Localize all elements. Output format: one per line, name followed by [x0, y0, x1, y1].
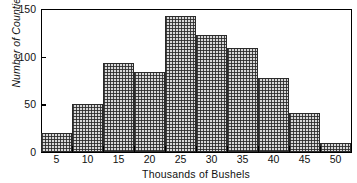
x-tick-label-35: 35	[228, 153, 258, 165]
x-tick-label-45: 45	[290, 153, 320, 165]
bar-bin-30	[196, 35, 227, 152]
x-tick-label-50: 50	[321, 153, 351, 165]
x-tick-label-25: 25	[166, 153, 196, 165]
x-tick-mark-42_5	[289, 146, 290, 152]
y-tick-label-100: 100	[12, 52, 36, 62]
x-tick-mark-37_5	[258, 146, 259, 152]
y-tick-label-50: 50	[12, 99, 36, 109]
bar-bin-5	[41, 133, 72, 152]
x-tick-label-15: 15	[104, 153, 134, 165]
bar-bin-35	[227, 48, 258, 152]
histogram-figure: Number of Counties 150 100 50 0 5 10 15 …	[0, 0, 357, 183]
bar-bin-40	[258, 78, 289, 152]
x-tick-mark-22_5	[165, 146, 166, 152]
x-tick-mark-17_5	[134, 146, 135, 152]
y-tick-label-0: 0	[12, 147, 36, 157]
x-tick-mark-12_5	[103, 146, 104, 152]
x-axis-title: Thousands of Bushels	[41, 168, 351, 180]
x-tick-mark-7_5	[72, 146, 73, 152]
y-tick-label-150: 150	[12, 4, 36, 14]
bar-bin-45	[289, 113, 320, 152]
bar-series	[41, 9, 351, 152]
x-tick-label-30: 30	[197, 153, 227, 165]
x-tick-label-40: 40	[259, 153, 289, 165]
bar-bin-15	[103, 63, 134, 152]
x-tick-mark-47_5	[320, 146, 321, 152]
x-tick-mark-32_5	[227, 146, 228, 152]
y-axis-tick-labels: 150 100 50 0	[6, 0, 36, 183]
x-tick-label-20: 20	[135, 153, 165, 165]
x-tick-label-5: 5	[42, 153, 72, 165]
bar-bin-20	[134, 72, 165, 152]
bar-bin-50	[320, 143, 351, 152]
x-tick-label-10: 10	[73, 153, 103, 165]
bar-bin-25	[165, 16, 196, 152]
x-tick-mark-27_5	[196, 146, 197, 152]
bar-bin-10	[72, 104, 103, 152]
